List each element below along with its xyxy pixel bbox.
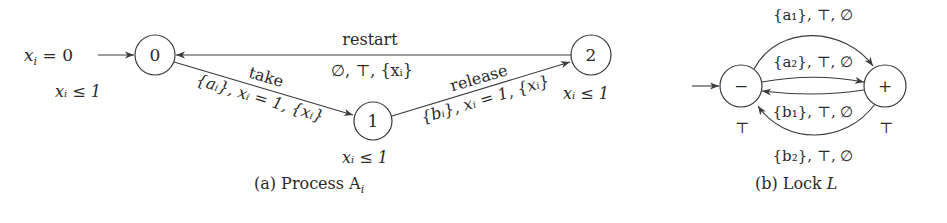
lock-automaton: {a₁}, ⊤, ∅ {a₂}, ⊤, ∅ {b₁}, ⊤, ∅ {b₂}, ⊤…	[692, 6, 906, 193]
edge-b1-label: {b₁}, ⊤, ∅	[773, 103, 854, 121]
process-automaton: xi = 0 restart ∅, ⊤, {xᵢ} take {aᵢ}, xᵢ …	[24, 30, 611, 196]
svg-text:−: −	[734, 76, 748, 96]
caption-b: (b) Lock L	[755, 174, 837, 193]
caption-a: (a) Process Ai	[254, 174, 364, 196]
state-2: 2	[571, 35, 611, 75]
figure-canvas: xi = 0 restart ∅, ⊤, {xᵢ} take {aᵢ}, xᵢ …	[0, 0, 947, 223]
state-minus-invariant: ⊤	[735, 119, 749, 137]
svg-text:2: 2	[586, 45, 597, 65]
state-1: 1	[354, 102, 392, 140]
edge-restart-guard: ∅, ⊤, {xᵢ}	[331, 61, 413, 80]
state-plus-invariant: ⊤	[879, 119, 893, 137]
state-1-invariant: xᵢ ≤ 1	[342, 148, 388, 167]
state-0-invariant: xᵢ ≤ 1	[55, 82, 101, 101]
state-2-invariant: xᵢ ≤ 1	[563, 84, 609, 103]
edge-a2-label: {a₂}, ⊤, ∅	[773, 53, 853, 71]
svg-text:+: +	[878, 76, 892, 96]
edge-restart-name: restart	[342, 30, 398, 49]
edge-a1-label: {a₁}, ⊤, ∅	[773, 6, 853, 24]
svg-text:0: 0	[150, 45, 161, 65]
initial-clock-label: xi = 0	[24, 45, 73, 68]
svg-text:1: 1	[368, 111, 379, 131]
edge-b2-label: {b₂}, ⊤, ∅	[773, 147, 854, 165]
state-0: 0	[135, 35, 175, 75]
state-plus: +	[864, 65, 906, 107]
edge-a2	[762, 78, 864, 83]
state-minus: −	[720, 65, 762, 107]
edge-b1	[762, 90, 864, 94]
